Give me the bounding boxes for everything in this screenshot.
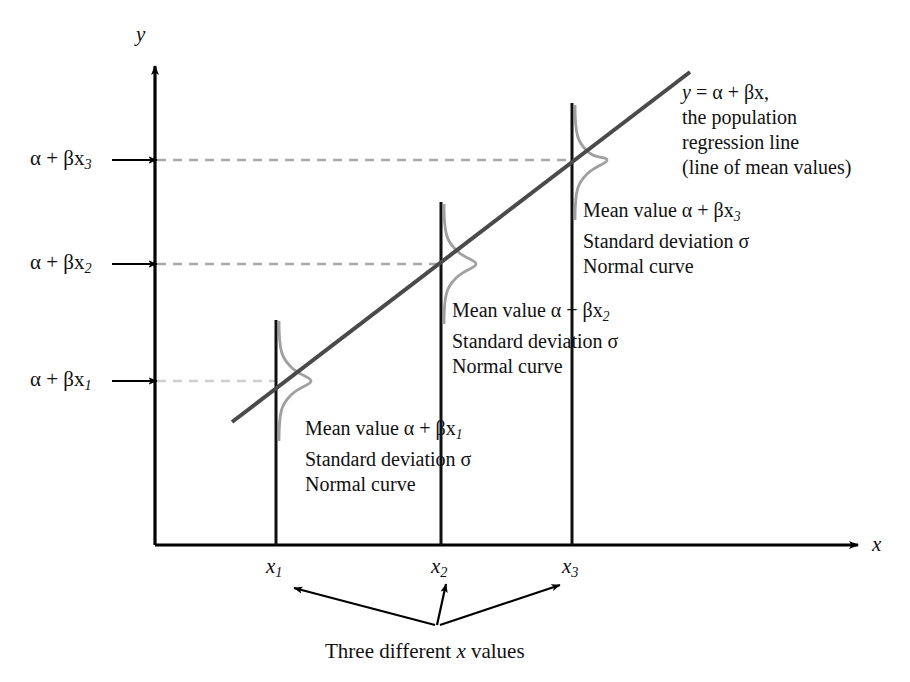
distribution-annotation-x2-mean-sub: 2 [603, 309, 610, 324]
regression-line-annotation: y = α + βx, the population regression li… [682, 80, 851, 180]
x-tick-sub-x3: 3 [571, 564, 578, 580]
distribution-annotation-x2-mean: Mean value α + βx2 [452, 298, 618, 329]
y-tick-sub-x2: 2 [85, 260, 92, 276]
regression-annotation-line-4: (line of mean values) [682, 155, 851, 180]
y-tick-label-x3: α + βx3 [30, 148, 92, 172]
bottom-caption-x-symbol: x [456, 639, 465, 663]
distribution-annotation-x3-mean-sub: 3 [734, 209, 741, 224]
x-tick-label-x1: x1 [266, 556, 282, 580]
distribution-annotation-x1-mean: Mean value α + βx1 [305, 416, 471, 447]
distribution-annotation-x1-mean-sub: 1 [456, 427, 463, 442]
distribution-annotation-x3-curve: Normal curve [583, 254, 749, 279]
regression-annotation-line-2: the population [682, 105, 851, 130]
x-tick-text-x3: x [562, 554, 571, 578]
y-tick-text-x2: α + βx [30, 250, 85, 274]
distribution-annotation-x2-curve: Normal curve [452, 354, 618, 379]
regression-annotation-equation: = α + βx, [691, 81, 769, 103]
y-tick-text-x1: α + βx [30, 367, 85, 391]
x-tick-sub-x2: 2 [440, 564, 447, 580]
distribution-annotation-x3: Mean value α + βx3 Standard deviation σ … [583, 198, 749, 279]
bottom-caption-prefix: Three different [325, 639, 456, 663]
distribution-annotation-x2-sd: Standard deviation σ [452, 329, 618, 354]
x-tick-text-x1: x [266, 554, 275, 578]
distribution-annotation-x2: Mean value α + βx2 Standard deviation σ … [452, 298, 618, 379]
distribution-annotation-x1-curve: Normal curve [305, 472, 471, 497]
y-tick-label-x1: α + βx1 [30, 369, 92, 393]
x-tick-label-x3: x3 [562, 556, 578, 580]
distribution-annotation-x1-sd: Standard deviation σ [305, 447, 471, 472]
distribution-annotation-x3-mean-text: Mean value α + βx [583, 199, 734, 221]
distribution-annotation-x1-mean-text: Mean value α + βx [305, 417, 456, 439]
distribution-annotation-x3-sd: Standard deviation σ [583, 229, 749, 254]
caption-arrow-x2 [437, 584, 446, 625]
y-tick-label-x2: α + βx2 [30, 252, 92, 276]
y-axis-label: y [136, 24, 145, 45]
y-tick-sub-x3: 3 [85, 156, 92, 172]
distribution-annotation-x2-mean-text: Mean value α + βx [452, 299, 603, 321]
y-tick-text-x3: α + βx [30, 146, 85, 170]
bottom-caption: Three different x values [325, 641, 525, 662]
x-tick-label-x2: x2 [431, 556, 447, 580]
caption-arrow-x3 [440, 585, 560, 625]
bottom-caption-suffix: values [466, 639, 525, 663]
x-tick-sub-x1: 1 [275, 564, 282, 580]
caption-arrow-x1 [294, 588, 435, 625]
distribution-annotation-x3-mean: Mean value α + βx3 [583, 198, 749, 229]
y-tick-sub-x1: 1 [85, 377, 92, 393]
regression-annotation-line-1: y = α + βx, [682, 80, 851, 105]
regression-figure: y x α + βx3 α + βx2 α + βx1 x1 x2 x3 y =… [0, 0, 910, 682]
x-tick-text-x2: x [431, 554, 440, 578]
x-axis-label: x [872, 534, 881, 555]
distribution-annotation-x1: Mean value α + βx1 Standard deviation σ … [305, 416, 471, 497]
regression-annotation-line-3: regression line [682, 130, 851, 155]
regression-annotation-y-symbol: y [682, 81, 691, 103]
